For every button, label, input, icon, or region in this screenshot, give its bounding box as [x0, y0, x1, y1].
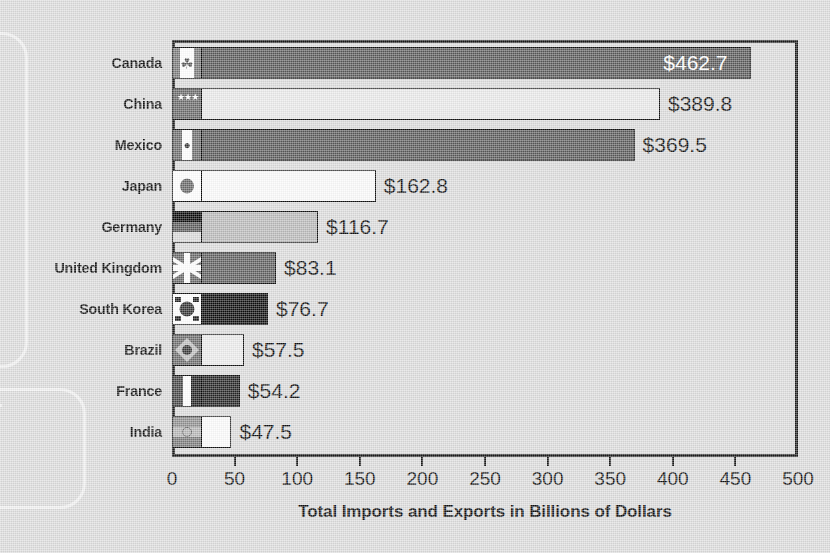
x-tick-50: [234, 457, 236, 466]
x-tick-label-200: 200: [407, 468, 439, 490]
x-tick-300: [547, 457, 549, 466]
bar-japan: [172, 170, 376, 202]
x-tick-label-250: 250: [469, 468, 501, 490]
bar-fill: [202, 376, 239, 406]
bar-rect: [172, 416, 231, 448]
value-label-south-korea: $76.7: [276, 297, 329, 321]
value-label-india: $47.5: [239, 420, 292, 444]
bar-france: [172, 375, 240, 407]
x-tick-label-300: 300: [532, 468, 564, 490]
x-tick-label-0: 0: [167, 468, 178, 490]
value-label-china: $389.8: [668, 92, 732, 116]
bar-rect: ★★★: [172, 88, 660, 120]
value-label-japan: $162.8: [384, 174, 448, 198]
bar-south-korea: [172, 293, 268, 325]
category-label-south-korea: South Korea: [13, 300, 162, 318]
bar-fill: [202, 130, 634, 160]
bar-mexico: ●: [172, 129, 635, 161]
category-label-mexico: Mexico: [13, 136, 162, 154]
flag-japan-icon: [173, 171, 202, 201]
bar-rect: [172, 170, 376, 202]
horizontal-bar-chart: Canada☘$462.7China★★★$389.8Mexico●$369.5…: [0, 0, 830, 553]
bar-rect: [172, 375, 240, 407]
bar-germany: [172, 211, 318, 243]
bar-brazil: [172, 334, 244, 366]
flag-korea-icon: [173, 294, 202, 324]
bar-rect: [172, 293, 268, 325]
bar-rect: ●: [172, 129, 635, 161]
category-label-france: France: [13, 382, 162, 400]
x-tick-label-450: 450: [720, 468, 752, 490]
x-tick-200: [421, 457, 423, 466]
x-tick-label-500: 500: [782, 468, 814, 490]
x-tick-400: [672, 457, 674, 466]
category-label-brazil: Brazil: [13, 341, 162, 359]
value-label-mexico: $369.5: [643, 133, 707, 157]
x-tick-100: [296, 457, 298, 466]
flag-china-icon: ★★★: [173, 89, 202, 119]
value-label-canada: $462.7: [663, 51, 727, 75]
x-tick-150: [359, 457, 361, 466]
value-label-germany: $116.7: [326, 215, 389, 239]
bar-rect: [172, 211, 318, 243]
x-tick-label-50: 50: [224, 468, 245, 490]
category-label-india: India: [13, 423, 162, 441]
flag-france-icon: [173, 376, 202, 406]
flag-uk-icon: [173, 253, 202, 283]
x-tick-label-100: 100: [281, 468, 313, 490]
bar-fill: [202, 171, 375, 201]
bar-fill: [202, 212, 317, 242]
bar-united-kingdom: [172, 252, 276, 284]
category-label-china: China: [13, 95, 162, 113]
category-label-united-kingdom: United Kingdom: [13, 259, 162, 277]
flag-germany-icon: [173, 212, 202, 242]
bar-rect: [172, 334, 244, 366]
flag-canada-icon: ☘: [173, 48, 202, 78]
category-label-japan: Japan: [13, 177, 162, 195]
bar-fill: [202, 253, 275, 283]
value-label-united-kingdom: $83.1: [284, 256, 337, 280]
x-axis-title: Total Imports and Exports in Billions of…: [172, 502, 798, 522]
flag-brazil-icon: [173, 335, 202, 365]
bar-rect: [172, 252, 276, 284]
category-label-germany: Germany: [13, 218, 162, 236]
category-label-canada: Canada: [13, 54, 162, 72]
x-tick-label-350: 350: [594, 468, 626, 490]
value-label-france: $54.2: [248, 379, 301, 403]
bar-india: [172, 416, 231, 448]
x-tick-450: [734, 457, 736, 466]
x-tick-label-150: 150: [344, 468, 376, 490]
x-tick-label-400: 400: [657, 468, 689, 490]
bar-china: ★★★: [172, 88, 660, 120]
x-tick-350: [609, 457, 611, 466]
bar-fill: [202, 417, 230, 447]
bar-fill: [202, 294, 267, 324]
bar-fill: [202, 89, 659, 119]
flag-mexico-icon: ●: [173, 130, 202, 160]
bar-fill: [202, 335, 243, 365]
flag-india-icon: [173, 417, 202, 447]
value-label-brazil: $57.5: [252, 338, 305, 362]
x-tick-250: [484, 457, 486, 466]
